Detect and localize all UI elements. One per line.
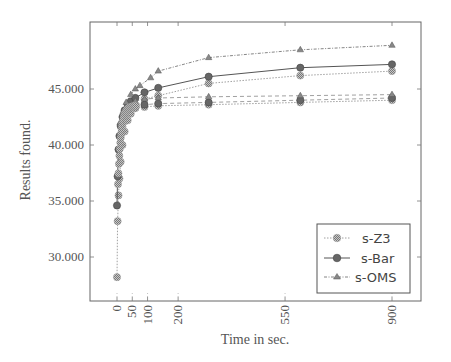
line-chart: 050100200550900 30.00035.00040.00045.000… bbox=[0, 0, 451, 362]
data-point-marker bbox=[114, 218, 121, 225]
legend: s-Z3 s-Bar s-OMS bbox=[317, 224, 410, 293]
data-point-marker bbox=[155, 84, 162, 91]
data-point-marker bbox=[297, 64, 304, 71]
x-tick-label: 200 bbox=[170, 305, 185, 325]
x-tick-label: 900 bbox=[384, 305, 399, 325]
checker-circle-icon bbox=[333, 234, 341, 242]
data-point-marker bbox=[132, 102, 139, 109]
y-tick-label: 45.000 bbox=[48, 81, 84, 96]
y-tick-label: 30.000 bbox=[48, 249, 84, 264]
data-point-marker bbox=[155, 100, 162, 107]
data-point-marker bbox=[205, 99, 212, 106]
data-point-marker bbox=[205, 73, 212, 80]
data-point-marker bbox=[116, 152, 123, 159]
x-tick-label: 550 bbox=[277, 305, 292, 325]
legend-label-s-oms: s-OMS bbox=[355, 270, 397, 285]
x-axis-label: Time in sec. bbox=[221, 332, 289, 347]
x-tick-label: 0 bbox=[109, 305, 124, 312]
data-point-marker bbox=[115, 160, 122, 167]
data-point-marker bbox=[141, 101, 148, 108]
y-tick-label: 40.000 bbox=[48, 137, 84, 152]
data-point-marker bbox=[297, 72, 304, 79]
filled-circle-icon bbox=[333, 254, 341, 262]
data-point-marker bbox=[388, 61, 395, 68]
data-point-marker bbox=[388, 67, 395, 74]
x-tick-label: 100 bbox=[140, 305, 155, 325]
data-point-marker bbox=[141, 89, 148, 96]
y-axis-label: Results found. bbox=[18, 120, 33, 201]
data-point-marker bbox=[114, 181, 121, 188]
legend-label-s-z3: s-Z3 bbox=[362, 231, 391, 246]
data-point-marker bbox=[205, 80, 212, 87]
y-tick-label: 35.000 bbox=[48, 193, 84, 208]
data-point-marker bbox=[113, 202, 120, 209]
data-point-marker bbox=[115, 170, 122, 177]
x-tick-label: 50 bbox=[124, 305, 139, 318]
data-point-marker bbox=[115, 192, 122, 199]
data-point-marker bbox=[113, 274, 120, 281]
legend-label-s-bar: s-Bar bbox=[361, 251, 395, 266]
